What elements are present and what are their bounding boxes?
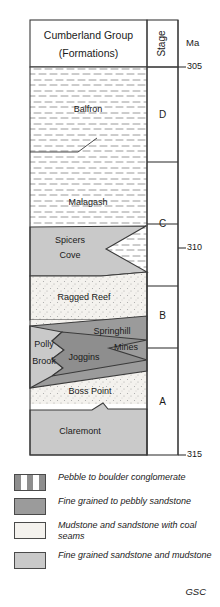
chart-area: Cumberland Group (Formations) Stage Ma B… (0, 0, 220, 470)
formation-label-mines: Mines (114, 342, 139, 352)
formation-label-claremont: Claremont (59, 426, 101, 436)
header-title-line2: (Formations) (59, 47, 119, 59)
formation-label-balfron: Balfron (74, 104, 103, 114)
legend-item-pebbly-sandstone: Fine grained to pebbly sandstone (0, 496, 220, 520)
header-stage-label: Stage (156, 30, 167, 57)
legend-item-coal-seams: Mudstone and sandstone with coal seams (0, 520, 220, 550)
stratigraphic-column-figure: Cumberland Group (Formations) Stage Ma B… (0, 0, 220, 607)
source-credit: GSC (185, 586, 206, 597)
stage-column: D C B A (147, 67, 178, 455)
header-row: Cumberland Group (Formations) Stage Ma (30, 20, 200, 67)
formation-label-malagash: Malagash (68, 197, 107, 207)
formation-label-springhill: Springhill (93, 326, 130, 336)
legend-swatch-conglomerate (14, 474, 46, 491)
formation-label-polly: Polly (34, 339, 54, 349)
stage-label-c: C (159, 218, 166, 229)
legend-label-fine-sandstone-mudstone: Fine grained sandstone and mudstone (58, 550, 218, 561)
header-age-label: Ma (186, 37, 200, 48)
age-tick-label-315: 315 (187, 449, 202, 459)
lithology-column: Balfron Malagash Spicers Cove Ragged Ree… (30, 67, 147, 455)
stage-label-b: B (159, 310, 166, 321)
legend: Pebble to boulder conglomerate Fine grai… (0, 472, 220, 572)
legend-label-coal-seams: Mudstone and sandstone with coal seams (58, 520, 218, 541)
age-tick-label-305: 305 (187, 61, 202, 71)
stage-label-d: D (159, 109, 166, 120)
legend-label-pebbly-sandstone: Fine grained to pebbly sandstone (58, 496, 218, 507)
legend-swatch-pebbly-sandstone (14, 498, 46, 515)
legend-item-conglomerate: Pebble to boulder conglomerate (0, 472, 220, 496)
age-axis: 305 310 315 (178, 20, 202, 459)
formation-label-cove: Cove (59, 250, 80, 260)
formation-label-joggins: Joggins (68, 352, 100, 362)
formation-label-brook: Brook (32, 356, 56, 366)
formation-label-ragged-reef: Ragged Reef (57, 292, 111, 302)
stage-label-a: A (159, 396, 166, 407)
header-title-line1: Cumberland Group (44, 29, 133, 41)
legend-swatch-fine-sandstone-mudstone (14, 552, 46, 569)
header-title-cell (30, 20, 147, 67)
legend-item-fine-sandstone-mudstone: Fine grained sandstone and mudstone (0, 550, 220, 574)
legend-label-conglomerate: Pebble to boulder conglomerate (58, 472, 218, 483)
age-tick-label-310: 310 (187, 242, 202, 252)
legend-swatch-coal-seams (14, 522, 46, 539)
formation-label-spicers: Spicers (55, 235, 86, 245)
formation-label-boss-point: Boss Point (68, 386, 112, 396)
